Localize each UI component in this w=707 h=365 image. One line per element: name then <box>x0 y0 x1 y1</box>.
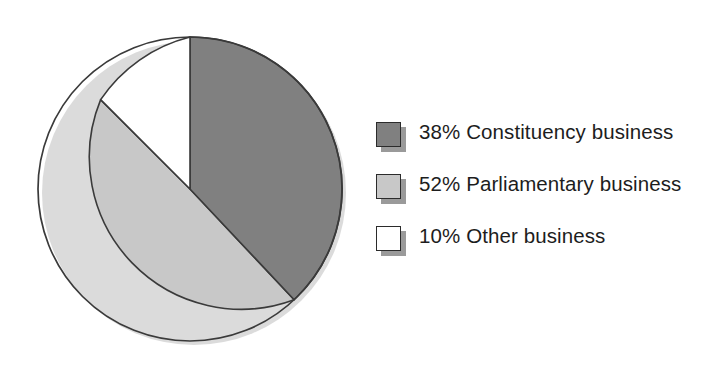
pie-chart-figure: 38% Constituency business 52% Parliament… <box>0 0 707 365</box>
pie-chart-plot <box>34 31 346 349</box>
legend-item-other-business: 10% Other business <box>376 216 696 268</box>
legend-swatch-other-business <box>376 226 408 256</box>
legend-swatch-constituency-business <box>376 122 408 152</box>
legend-swatch-parliamentary-business <box>376 174 408 204</box>
legend-swatch-fill <box>376 174 401 199</box>
legend-swatch-fill <box>376 122 401 147</box>
pie-svg <box>34 31 346 349</box>
legend-swatch-fill <box>376 226 401 251</box>
legend-item-constituency-business: 38% Constituency business <box>376 112 696 164</box>
legend-label-parliamentary-business: 52% Parliamentary business <box>419 170 681 198</box>
chart-legend: 38% Constituency business 52% Parliament… <box>376 112 696 268</box>
legend-label-other-business: 10% Other business <box>419 222 605 250</box>
legend-label-constituency-business: 38% Constituency business <box>419 118 673 146</box>
legend-item-parliamentary-business: 52% Parliamentary business <box>376 164 696 216</box>
